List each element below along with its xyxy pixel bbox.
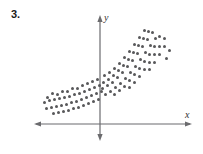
scatter-point	[60, 104, 63, 107]
scatter-point	[85, 96, 88, 99]
scatter-point	[107, 78, 110, 81]
scatter-point	[143, 60, 146, 63]
scatter-point	[96, 78, 99, 81]
scatter-point	[43, 101, 46, 104]
scatter-point	[163, 37, 166, 40]
scatter-point	[139, 58, 142, 61]
scatter-point	[48, 99, 51, 102]
scatter-point	[158, 45, 161, 48]
scatter-point	[72, 107, 75, 110]
scatter-point	[122, 64, 125, 67]
scatter-point	[141, 45, 144, 48]
y-axis-arrow-down	[97, 134, 102, 141]
scatter-point	[77, 106, 80, 109]
scatter-point	[62, 110, 65, 113]
scatter-point	[168, 49, 171, 52]
scatter-point	[146, 38, 149, 41]
scatter-point	[158, 53, 161, 56]
scatter-point	[112, 74, 115, 77]
scatter-point	[71, 87, 74, 90]
scatter-point	[95, 92, 98, 95]
scatter-point	[52, 112, 55, 115]
scatter-point	[113, 93, 116, 96]
scatter-point	[56, 93, 59, 96]
scatter-point	[50, 106, 53, 109]
scatter-point	[58, 97, 61, 100]
scatter-point	[111, 81, 114, 84]
scatter-point	[134, 65, 137, 68]
scatter-point	[118, 62, 121, 65]
y-axis-label: y	[104, 13, 108, 23]
scatter-point	[83, 90, 86, 93]
scatter-point	[163, 45, 166, 48]
scatter-plot-axes	[0, 0, 203, 154]
scatter-point	[68, 95, 71, 98]
x-axis-group	[34, 121, 192, 126]
scatter-point	[128, 79, 131, 82]
scatter-point	[70, 101, 73, 104]
scatter-point	[108, 71, 111, 74]
x-axis-arrow-left	[34, 121, 41, 126]
scatter-point	[119, 82, 122, 85]
scatter-point	[93, 86, 96, 89]
scatter-point	[118, 89, 121, 92]
scatter-point	[148, 53, 151, 56]
scatter-point	[87, 102, 90, 105]
scatter-point	[127, 58, 130, 61]
scatter-point	[154, 37, 157, 40]
scatter-point	[128, 86, 131, 89]
scatter-point	[114, 86, 117, 89]
scatter-point	[65, 103, 68, 106]
scatter-point	[102, 81, 105, 84]
scatter-point	[61, 90, 64, 93]
scatter-point	[103, 74, 106, 77]
scatter-point	[144, 51, 147, 54]
scatter-point	[149, 44, 152, 47]
scatter-point	[165, 57, 168, 60]
scatter-point	[158, 35, 161, 38]
scatter-point	[153, 53, 156, 56]
scatter-point	[82, 104, 85, 107]
scatter-point	[126, 65, 129, 68]
scatter-point	[106, 84, 109, 87]
scatter-point	[90, 94, 93, 97]
scatter-point	[67, 109, 70, 112]
scatter-point	[153, 45, 156, 48]
scatter-point	[98, 84, 101, 87]
scatter-point	[148, 61, 151, 64]
scatter-point	[100, 90, 103, 93]
x-axis-label: x	[185, 110, 189, 120]
scatter-point	[51, 92, 54, 95]
scatter-point	[109, 90, 112, 93]
scatter-point	[138, 75, 141, 78]
scatter-point	[116, 76, 119, 79]
scatter-point	[123, 85, 126, 88]
scatter-point	[53, 98, 56, 101]
scatter-point	[128, 50, 131, 53]
scatter-point	[143, 68, 146, 71]
scatter-point	[92, 100, 95, 103]
scatter-point	[113, 67, 116, 70]
scatter-point	[55, 105, 58, 108]
scatter-point	[147, 30, 150, 33]
scatter-point	[148, 68, 151, 71]
scatter-point	[91, 80, 94, 83]
scatter-point	[151, 31, 154, 34]
scatter-point	[133, 81, 136, 84]
scatter-point	[117, 69, 120, 72]
scatter-point	[137, 44, 140, 47]
scatter-point	[129, 71, 132, 74]
scatter-point	[124, 77, 127, 80]
scatter-point	[75, 100, 78, 103]
scatter-point	[73, 93, 76, 96]
worksheet-problem-figure: 3. y x	[0, 0, 203, 154]
scatter-point	[78, 92, 81, 95]
scatter-point	[63, 96, 66, 99]
scatter-point	[142, 37, 145, 40]
scatter-point	[80, 98, 83, 101]
scatter-point	[66, 90, 69, 93]
scatter-point	[138, 36, 141, 39]
scatter-point	[86, 82, 89, 85]
scatter-point	[132, 51, 135, 54]
scatter-point	[131, 59, 134, 62]
